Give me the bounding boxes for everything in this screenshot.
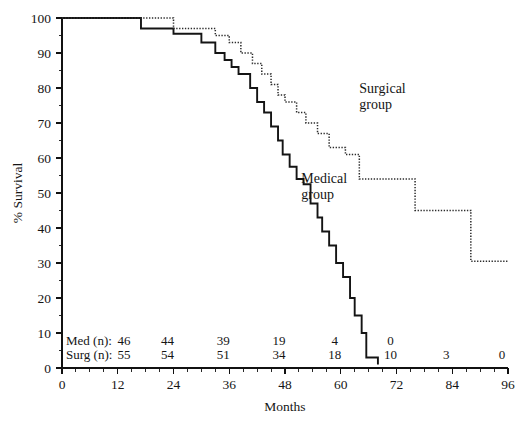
risk-value-r1-m84: 3 [443, 347, 450, 362]
axes [62, 18, 508, 368]
kaplan-meier-plot: 010203040506070809010001224364860728496 … [0, 0, 529, 421]
y-tick-label-40: 40 [38, 221, 52, 236]
x-tick-label-48: 48 [278, 377, 292, 392]
risk-value-r1-m96: 0 [499, 347, 506, 362]
surgical-group-label-line2: group [359, 97, 392, 112]
risk-value-r0-m36: 39 [217, 333, 230, 348]
x-tick-label-84: 84 [446, 377, 460, 392]
risk-value-r1-m48: 34 [273, 347, 287, 362]
risk-value-r1-m24: 54 [161, 347, 175, 362]
x-tick-label-12: 12 [111, 377, 125, 392]
risk-value-r1-m0: 55 [118, 347, 131, 362]
y-tick-label-20: 20 [38, 291, 52, 306]
y-tick-label-0: 0 [44, 361, 51, 376]
y-tick-label-10: 10 [38, 326, 52, 341]
y-tick-label-90: 90 [38, 46, 52, 61]
risk-value-r0-m60: 4 [332, 333, 339, 348]
risk-row-label-1: Surg (n): [66, 347, 112, 362]
x-tick-label-96: 96 [501, 377, 515, 392]
risk-value-r1-m36: 51 [217, 347, 230, 362]
x-tick-label-60: 60 [334, 377, 348, 392]
numbers-at-risk-table: Med (n):4644391940Surg (n):5554513418103… [66, 333, 505, 362]
axis-titles: Months% Survival [10, 163, 306, 414]
risk-row-label-0: Med (n): [66, 333, 112, 348]
x-tick-label-0: 0 [59, 377, 66, 392]
risk-value-r0-m48: 19 [273, 333, 286, 348]
surgical-group-label-line1: Surgical [359, 81, 406, 96]
x-tick-label-36: 36 [223, 377, 237, 392]
y-tick-label-100: 100 [31, 11, 52, 26]
risk-value-r1-m60: 18 [328, 347, 341, 362]
risk-value-r0-m72: 0 [387, 333, 394, 348]
survival-chart-figure: 010203040506070809010001224364860728496 … [0, 0, 529, 421]
y-axis-title: % Survival [10, 163, 25, 224]
risk-value-r0-m24: 44 [161, 333, 175, 348]
curve-annotations: MedicalgroupSurgicalgroup [301, 81, 406, 201]
y-tick-label-70: 70 [38, 116, 52, 131]
medical-group-label-line1: Medical [301, 171, 347, 186]
survival-curves [62, 18, 508, 365]
curve-surgical-group [62, 18, 508, 261]
risk-value-r1-m72: 10 [384, 347, 397, 362]
axis-ticks [56, 18, 508, 374]
x-axis-title: Months [264, 399, 305, 414]
x-tick-label-24: 24 [167, 377, 181, 392]
y-tick-label-30: 30 [38, 256, 52, 271]
y-tick-label-80: 80 [38, 81, 52, 96]
medical-group-label-line2: group [301, 187, 334, 202]
y-tick-label-50: 50 [38, 186, 52, 201]
y-tick-label-60: 60 [38, 151, 52, 166]
x-tick-label-72: 72 [390, 377, 404, 392]
risk-value-r0-m0: 46 [118, 333, 132, 348]
